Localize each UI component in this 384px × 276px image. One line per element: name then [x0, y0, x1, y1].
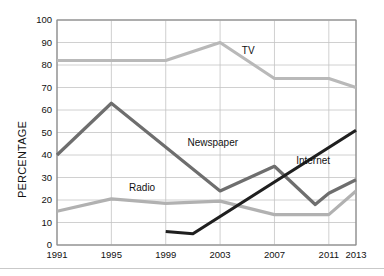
series-label-radio: Radio	[129, 182, 155, 193]
x-tick-label: 1995	[91, 249, 131, 260]
y-axis-title: PERCENTAGE	[16, 121, 28, 198]
x-tick-label: 1991	[37, 249, 77, 260]
series-label-newspaper: Newspaper	[187, 137, 238, 148]
series-label-internet: Internet	[296, 155, 330, 166]
y-tick-label: 100	[28, 14, 52, 25]
y-tick-label: 30	[28, 172, 52, 183]
x-tick-label: 1999	[146, 249, 186, 260]
x-tick-label: 2013	[336, 249, 376, 260]
y-tick-label: 40	[28, 149, 52, 160]
y-tick-label: 20	[28, 194, 52, 205]
series-label-tv: TV	[242, 45, 255, 56]
y-tick-label: 60	[28, 104, 52, 115]
x-tick-label: 2007	[254, 249, 294, 260]
bottom-divider	[0, 268, 384, 269]
y-tick-label: 70	[28, 82, 52, 93]
y-tick-label: 90	[28, 37, 52, 48]
y-tick-label: 50	[28, 127, 52, 138]
y-tick-label: 80	[28, 59, 52, 70]
x-tick-label: 2003	[200, 249, 240, 260]
y-tick-label: 10	[28, 217, 52, 228]
line-chart-figure: PERCENTAGE 0102030405060708090100 199119…	[0, 0, 384, 276]
